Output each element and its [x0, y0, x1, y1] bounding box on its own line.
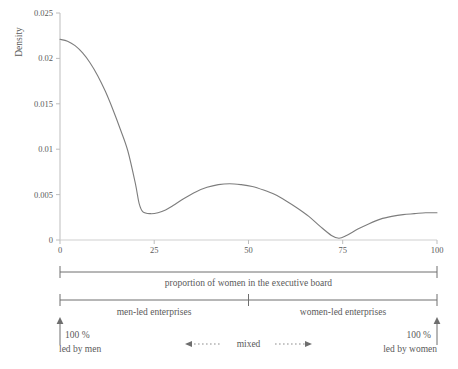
- left-marker-line1: 100 %: [65, 330, 90, 340]
- left-marker-line2: led by men: [59, 344, 101, 354]
- segment-label-men-led: men-led enterprises: [117, 307, 192, 317]
- y-tick-label-2: 0.01: [38, 144, 53, 154]
- density-chart-svg: 0 0.005 0.01 0.015 0.02 0.025 Density 0 …: [0, 0, 458, 369]
- x-tick-label-1: 25: [150, 245, 159, 255]
- y-tick-label-4: 0.02: [38, 53, 53, 63]
- chart-figure: 0 0.005 0.01 0.015 0.02 0.025 Density 0 …: [0, 0, 458, 369]
- x-tick-label-2: 50: [244, 245, 253, 255]
- y-axis-ticks: [56, 13, 60, 240]
- right-marker-arrow-icon: [434, 317, 441, 345]
- x-axis-ticks: [60, 240, 437, 244]
- y-tick-label-3: 0.015: [34, 99, 53, 109]
- proportion-bracket: [60, 266, 437, 278]
- x-tick-label-4: 100: [431, 245, 444, 255]
- y-tick-label-1: 0.005: [34, 190, 53, 200]
- left-marker-arrow-icon: [57, 317, 64, 345]
- x-tick-label-3: 75: [338, 245, 347, 255]
- y-tick-label-5: 0.025: [34, 8, 53, 18]
- x-tick-label-0: 0: [58, 245, 62, 255]
- y-tick-label-0: 0: [49, 235, 53, 245]
- segment-label-women-led: women-led enterprises: [300, 307, 387, 317]
- right-marker-line1: 100 %: [406, 330, 431, 340]
- mixed-label: mixed: [237, 339, 261, 349]
- right-marker-line2: led by women: [383, 344, 437, 354]
- density-curve: [60, 39, 437, 238]
- y-axis-title: Density: [14, 27, 24, 57]
- x-axis-title: proportion of women in the executive boa…: [165, 278, 333, 288]
- mixed-right-arrow-icon: [275, 341, 312, 347]
- mixed-left-arrow-icon: [185, 341, 222, 347]
- segments-bracket: [60, 294, 437, 306]
